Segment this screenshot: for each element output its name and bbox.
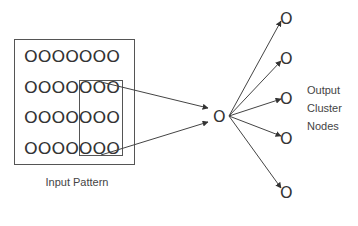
output-label-line-2: Cluster	[307, 99, 342, 117]
input-row-3: OOOOOOO	[24, 109, 120, 127]
input-pattern-label: Input Pattern	[32, 173, 122, 191]
center-node: O	[213, 107, 226, 126]
output-cluster-nodes-label: Output Cluster Nodes	[307, 81, 342, 135]
output-node-3: O	[280, 89, 293, 108]
output-nodes: O O O O O	[280, 9, 293, 202]
cluster-diagram: OOOOOOO OOOOOOO OOOOOOO OOOOOOO O O O O …	[0, 0, 358, 226]
output-label-line-1: Output	[307, 81, 342, 99]
output-node-4: O	[280, 129, 293, 148]
output-node-1: O	[280, 9, 293, 28]
output-node-2: O	[280, 49, 293, 68]
input-row-2: OOOOOOO	[24, 79, 120, 97]
input-row-4: OOOOOOO	[24, 140, 120, 158]
output-label-line-3: Nodes	[307, 117, 342, 135]
output-arrow-5	[229, 116, 281, 188]
output-node-5: O	[280, 183, 293, 202]
input-row-1: OOOOOOO	[24, 48, 120, 66]
output-arrows	[229, 21, 281, 188]
input-grid: OOOOOOO OOOOOOO OOOOOOO OOOOOOO	[24, 48, 120, 158]
